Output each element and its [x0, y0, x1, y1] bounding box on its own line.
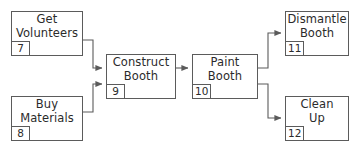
node-label-get-volunteers: Get Volunteers [12, 12, 82, 41]
node-label-buy-materials: Buy Materials [12, 97, 82, 126]
node-label-clean-up: Clean Up [286, 97, 348, 126]
node-clean-up[interactable]: Clean Up 12 [285, 96, 349, 141]
node-tag-clean-up: 12 [285, 126, 304, 141]
node-dismantle-booth[interactable]: Dismantle Booth 11 [285, 11, 349, 56]
node-tag-get-volunteers: 7 [11, 41, 30, 56]
edge-buy-materials-to-construct-booth [83, 84, 102, 112]
edge-paint-booth-to-clean-up [258, 84, 281, 118]
edge-get-volunteers-to-construct-booth [83, 40, 102, 68]
node-paint-booth[interactable]: Paint Booth 10 [192, 54, 258, 99]
node-label-dismantle-booth: Dismantle Booth [286, 12, 348, 41]
node-tag-buy-materials: 8 [11, 126, 30, 141]
node-label-construct-booth: Construct Booth [107, 55, 175, 84]
node-tag-dismantle-booth: 11 [285, 41, 304, 56]
node-buy-materials[interactable]: Buy Materials 8 [11, 96, 83, 141]
node-tag-paint-booth: 10 [192, 84, 211, 99]
flowchart-diagram: Get Volunteers 7 Buy Materials 8 Constru… [0, 0, 360, 152]
node-label-paint-booth: Paint Booth [193, 55, 257, 84]
node-get-volunteers[interactable]: Get Volunteers 7 [11, 11, 83, 56]
node-tag-construct-booth: 9 [106, 84, 125, 99]
node-construct-booth[interactable]: Construct Booth 9 [106, 54, 176, 99]
edge-paint-booth-to-dismantle-booth [258, 33, 281, 68]
